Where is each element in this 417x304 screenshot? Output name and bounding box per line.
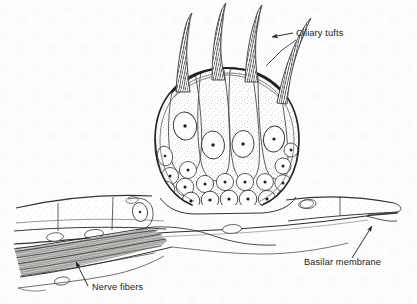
nucleolus (272, 137, 275, 140)
nucleolus (282, 165, 285, 168)
nucleolus (164, 155, 167, 158)
nucleolus (241, 142, 244, 145)
nucleolus (227, 197, 230, 200)
nucleolus (224, 181, 227, 184)
nucleolus (246, 197, 249, 200)
nucleolus (208, 198, 211, 201)
nucleolus (211, 143, 214, 146)
figure-root: Ciliary tufts Basilar membrane Nerve fib… (0, 0, 417, 304)
nucleolus (183, 124, 186, 127)
label-nerve-fibers: Nerve fibers (92, 282, 144, 292)
nucleolus (290, 149, 293, 152)
neuromast-diagram: Ciliary tufts Basilar membrane Nerve fib… (0, 0, 417, 304)
nucleolus (184, 186, 187, 189)
nucleolus (139, 211, 141, 213)
nucleolus (264, 181, 267, 184)
label-basilar-membrane: Basilar membrane (304, 257, 381, 267)
nucleolus (187, 169, 190, 172)
label-ciliary-tufts: Ciliary tufts (296, 28, 344, 38)
nucleolus (204, 183, 207, 186)
nucleolus (244, 181, 247, 184)
